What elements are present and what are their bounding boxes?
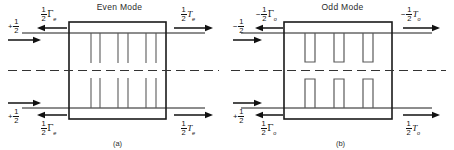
label-bottom-left-incident: +12	[8, 108, 19, 125]
label-top-left-reflected: −12Γo	[256, 6, 277, 23]
arrow-top-left-incident	[8, 37, 41, 43]
label-top-left-reflected: 12Γe	[40, 6, 56, 23]
panel-caption: (b)	[227, 139, 454, 148]
label-bottom-right-transmitted: 12Te	[180, 120, 195, 137]
arrow-bottom-right-transmitted	[174, 112, 213, 118]
label-top-right-transmitted: 12Te	[180, 6, 195, 23]
figure-root: Even Mode	[0, 0, 454, 150]
stub-group-top	[91, 33, 156, 63]
arrow-bottom-left-reflected	[255, 112, 283, 118]
arrow-bottom-left-reflected	[37, 112, 67, 118]
arrow-top-left-incident	[233, 37, 262, 43]
label-top-left-incident: +12	[8, 18, 19, 35]
arrow-top-right-transmitted	[403, 25, 440, 31]
stub-group-top	[305, 33, 373, 62]
panel-even-mode: Even Mode	[0, 0, 227, 150]
stub-group-bottom	[91, 78, 156, 108]
panel-caption: (a)	[0, 139, 231, 148]
label-bottom-left-incident: +12	[233, 108, 244, 125]
arrow-top-left-reflected	[255, 25, 283, 31]
arrow-top-right-transmitted	[174, 25, 213, 31]
arrow-bottom-left-incident	[8, 100, 41, 106]
stub-group-bottom	[305, 79, 373, 108]
arrow-top-left-reflected	[37, 25, 67, 31]
arrow-bottom-left-incident	[233, 100, 262, 106]
arrow-bottom-right-transmitted	[403, 112, 440, 118]
label-bottom-right-transmitted: 12To	[405, 120, 420, 137]
label-bottom-left-reflected: 12Γe	[40, 120, 56, 137]
label-top-right-transmitted: −12To	[401, 6, 421, 23]
label-top-left-incident: −12	[233, 18, 244, 35]
panel-odd-mode: Odd Mode	[227, 0, 454, 150]
label-bottom-left-reflected: 12Γo	[260, 120, 276, 137]
